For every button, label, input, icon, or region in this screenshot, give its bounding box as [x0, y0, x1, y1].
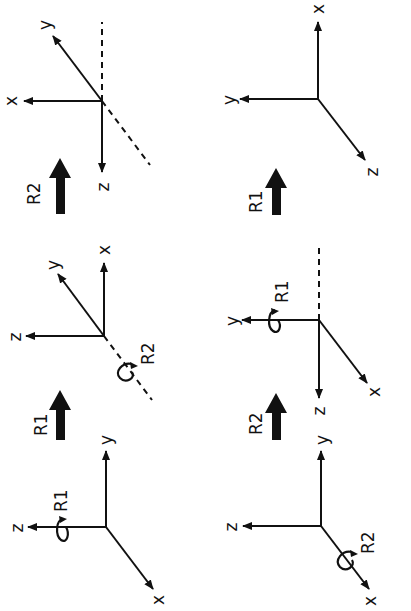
rotation-marker-label: R1 — [51, 489, 71, 512]
block-arrow-icon — [265, 168, 287, 215]
transition-arrow-r2-top: R2 — [24, 158, 71, 214]
z-axis-label: z — [362, 167, 382, 176]
z-axis-label: z — [309, 406, 329, 415]
frame-top-final: x y z — [1, 20, 150, 192]
z-axis-label: z — [7, 523, 27, 532]
y-axis-label: y — [222, 316, 242, 326]
x-axis — [106, 527, 153, 589]
z-axis — [318, 99, 365, 160]
frame-bottom-initial: y z x R2 — [221, 435, 380, 606]
rotation-arrowhead-icon — [59, 516, 67, 523]
transition-label: R2 — [246, 412, 266, 435]
frame-top-initial: y z x R1 — [7, 435, 168, 605]
x-axis-label: x — [308, 4, 328, 14]
x-axis-label: x — [360, 596, 380, 606]
block-arrow-icon — [49, 390, 71, 440]
transition-label: R2 — [24, 182, 44, 205]
dashed-reference-line — [102, 101, 150, 165]
x-axis-label: x — [148, 595, 168, 605]
z-axis-label: z — [221, 522, 241, 531]
rotation-marker-label: R1 — [272, 280, 292, 303]
block-arrow-icon — [49, 158, 71, 214]
rotation-arrowhead-icon — [130, 362, 138, 369]
y-axis-label: y — [219, 95, 239, 105]
transition-arrow-r1-top: R1 — [31, 390, 71, 440]
rotation-marker-label: R2 — [138, 342, 158, 365]
y-axis — [58, 274, 104, 336]
y-axis-label: y — [312, 435, 332, 445]
frame-top-middle: x y z R2 — [5, 245, 158, 400]
x-axis — [319, 320, 367, 383]
y-axis-label: y — [35, 20, 55, 30]
z-axis-label: z — [93, 182, 113, 191]
x-axis-label: x — [1, 96, 21, 106]
y-axis-label: y — [96, 435, 116, 445]
block-arrow-icon — [265, 393, 287, 440]
rotation-marker-label: R2 — [358, 531, 378, 554]
y-axis — [53, 36, 102, 101]
transition-arrow-r1-bottom: R1 — [246, 168, 287, 215]
transition-label: R1 — [246, 190, 266, 213]
transition-arrow-r2-bottom: R2 — [246, 393, 287, 440]
z-axis-label: z — [5, 332, 25, 341]
y-axis-label: y — [43, 260, 63, 270]
transition-label: R1 — [31, 413, 51, 436]
rotation-arrowhead-icon — [271, 308, 279, 315]
frame-bottom-final: x y z — [219, 4, 382, 177]
frame-bottom-middle: y z x R1 — [222, 244, 384, 415]
x-axis-label: x — [364, 387, 384, 397]
rotation-diagram: x y z R2 x y z R2 R1 y z — [0, 0, 411, 611]
x-axis-label: x — [94, 245, 114, 255]
rotation-loop-icon — [57, 519, 68, 541]
rotation-arrowhead-icon — [350, 550, 358, 557]
